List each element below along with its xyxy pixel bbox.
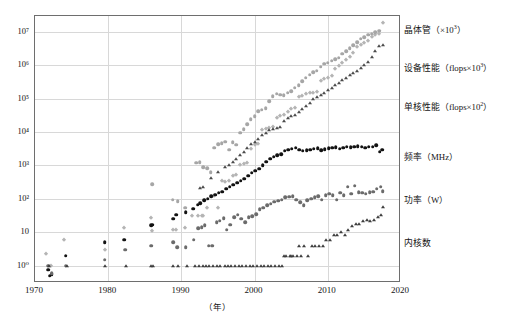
- data-point-frequency: [184, 210, 188, 214]
- data-point-power: [196, 227, 200, 231]
- data-point-cores: [302, 244, 306, 247]
- data-point-device-performance: [330, 59, 334, 63]
- data-point-frequency: [257, 167, 261, 171]
- data-point-frequency: [380, 148, 384, 152]
- gridline-horizontal: [35, 32, 399, 33]
- data-point-frequency: [50, 272, 54, 276]
- data-point-transistors: [263, 126, 268, 131]
- data-point-transistors: [201, 214, 206, 219]
- data-point-device-performance: [216, 143, 220, 147]
- data-point-cores: [379, 213, 383, 216]
- data-point-single-core-performance: [373, 50, 377, 53]
- x-tick-label: 2020: [380, 285, 420, 295]
- data-point-transistors: [274, 115, 279, 120]
- data-point-device-performance: [249, 118, 253, 122]
- data-point-frequency: [371, 145, 375, 149]
- data-point-frequency: [330, 146, 334, 150]
- x-tick-label: 1980: [87, 285, 127, 295]
- chart-figure: 10⁰1010²10³10⁴10⁵10⁶10⁷ 1970198019902000…: [0, 0, 518, 327]
- data-point-single-core-performance: [300, 107, 304, 110]
- data-point-device-performance: [333, 58, 337, 62]
- data-point-power: [236, 213, 240, 217]
- data-point-single-core-performance: [340, 78, 344, 81]
- data-point-power: [338, 191, 342, 195]
- data-point-transistors: [219, 179, 224, 184]
- data-point-frequency: [48, 274, 52, 278]
- data-point-transistors: [322, 77, 327, 82]
- gridline-horizontal: [35, 232, 399, 233]
- data-point-power: [262, 206, 266, 210]
- data-point-device-performance: [355, 40, 359, 44]
- data-point-frequency: [298, 148, 302, 152]
- data-point-power: [243, 220, 247, 224]
- data-point-frequency: [367, 145, 371, 149]
- data-point-device-performance: [278, 93, 282, 97]
- data-point-device-performance: [267, 99, 271, 103]
- data-point-cores: [289, 254, 293, 257]
- data-point-power: [357, 190, 361, 194]
- data-point-transistors: [355, 45, 360, 50]
- data-point-frequency: [199, 201, 203, 205]
- data-point-single-core-performance: [366, 60, 370, 63]
- data-point-transistors: [102, 248, 107, 253]
- data-point-cores: [335, 234, 339, 237]
- gridline-vertical: [181, 16, 182, 281]
- data-point-frequency: [356, 144, 360, 148]
- data-point-frequency: [151, 223, 155, 227]
- y-tick-label: 10⁵: [0, 94, 29, 102]
- data-point-single-core-performance: [370, 55, 374, 58]
- data-point-device-performance: [183, 206, 187, 210]
- data-point-transistors: [373, 33, 378, 38]
- data-point-single-core-performance: [256, 137, 260, 140]
- series-label-text: 晶体管（×10: [404, 25, 454, 35]
- data-point-power: [273, 200, 277, 204]
- data-point-single-core-performance: [308, 101, 312, 104]
- data-point-cores: [310, 244, 314, 247]
- data-point-single-core-performance: [198, 186, 202, 189]
- series-label-transistors: 晶体管（×103）: [404, 22, 466, 35]
- data-point-power: [342, 193, 346, 197]
- data-point-device-performance: [194, 161, 198, 165]
- data-point-power: [210, 244, 214, 248]
- data-point-power: [192, 238, 196, 242]
- data-point-device-performance: [275, 92, 279, 96]
- data-point-power: [50, 271, 54, 275]
- data-point-device-performance: [176, 199, 180, 203]
- gridline-vertical: [108, 16, 109, 281]
- data-point-device-performance: [308, 73, 312, 77]
- y-tick-label: 10⁰: [0, 261, 29, 269]
- data-point-power: [381, 189, 385, 193]
- x-tick-label: 2000: [234, 285, 274, 295]
- data-point-frequency: [363, 146, 367, 150]
- data-point-device-performance: [224, 140, 228, 144]
- data-point-cores: [313, 244, 317, 247]
- data-point-single-core-performance: [304, 104, 308, 107]
- data-point-frequency: [64, 254, 68, 258]
- data-point-transistors: [358, 42, 363, 47]
- data-point-device-performance: [264, 106, 268, 110]
- data-point-device-performance: [282, 94, 286, 98]
- data-point-power: [265, 204, 269, 208]
- x-tick-label: 1970: [14, 285, 54, 295]
- data-point-power: [229, 223, 233, 227]
- data-point-single-core-performance: [231, 160, 235, 163]
- data-point-device-performance: [257, 109, 261, 113]
- data-point-frequency: [175, 213, 179, 217]
- data-point-transistors: [380, 20, 385, 25]
- data-point-transistors: [148, 215, 153, 220]
- data-point-device-performance: [235, 143, 239, 147]
- data-point-transistors: [278, 113, 283, 118]
- data-point-power: [175, 246, 179, 250]
- data-point-power: [150, 244, 154, 248]
- data-point-single-core-performance: [242, 150, 246, 153]
- series-label-power: 功率（W）: [404, 195, 448, 205]
- data-point-power: [225, 228, 229, 232]
- data-point-cores: [350, 224, 354, 227]
- data-point-power: [232, 216, 236, 220]
- y-tick-label: 10: [0, 227, 29, 235]
- series-label-tail: ）: [483, 102, 492, 112]
- series-label-cores: 内核数: [404, 238, 431, 248]
- data-point-frequency: [294, 146, 298, 150]
- data-point-frequency: [338, 147, 342, 151]
- data-point-frequency: [235, 181, 239, 185]
